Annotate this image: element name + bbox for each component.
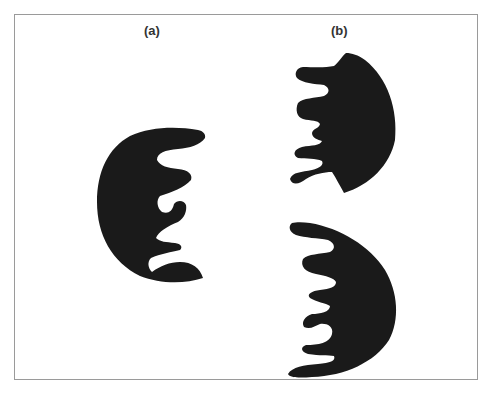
figure-shapes <box>0 0 492 395</box>
comb-shape-b-top <box>290 53 396 193</box>
comb-shape-a <box>97 128 205 283</box>
comb-shape-b-bottom <box>288 222 396 377</box>
